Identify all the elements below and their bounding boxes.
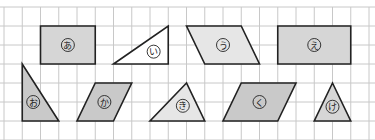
grid-figure: あいうえおかきくけ xyxy=(0,0,375,140)
shape-a-rectangle: あ xyxy=(41,26,96,64)
shape-label: う xyxy=(219,41,228,51)
grid-paper: あいうえおかきくけ xyxy=(0,0,375,140)
shape-label: え xyxy=(310,41,319,51)
shape-label: あ xyxy=(63,41,72,51)
shape-label: く xyxy=(255,98,264,108)
shape-label: お xyxy=(29,98,38,108)
shape-label: け xyxy=(328,102,337,112)
shape-label: い xyxy=(149,47,158,57)
shape-ku-parallelogram: く xyxy=(223,83,296,121)
shape-u-parallelogram: う xyxy=(187,26,260,64)
shape-label: か xyxy=(100,98,109,108)
shape-label: き xyxy=(178,101,187,111)
shape-e-rectangle: え xyxy=(278,26,351,64)
